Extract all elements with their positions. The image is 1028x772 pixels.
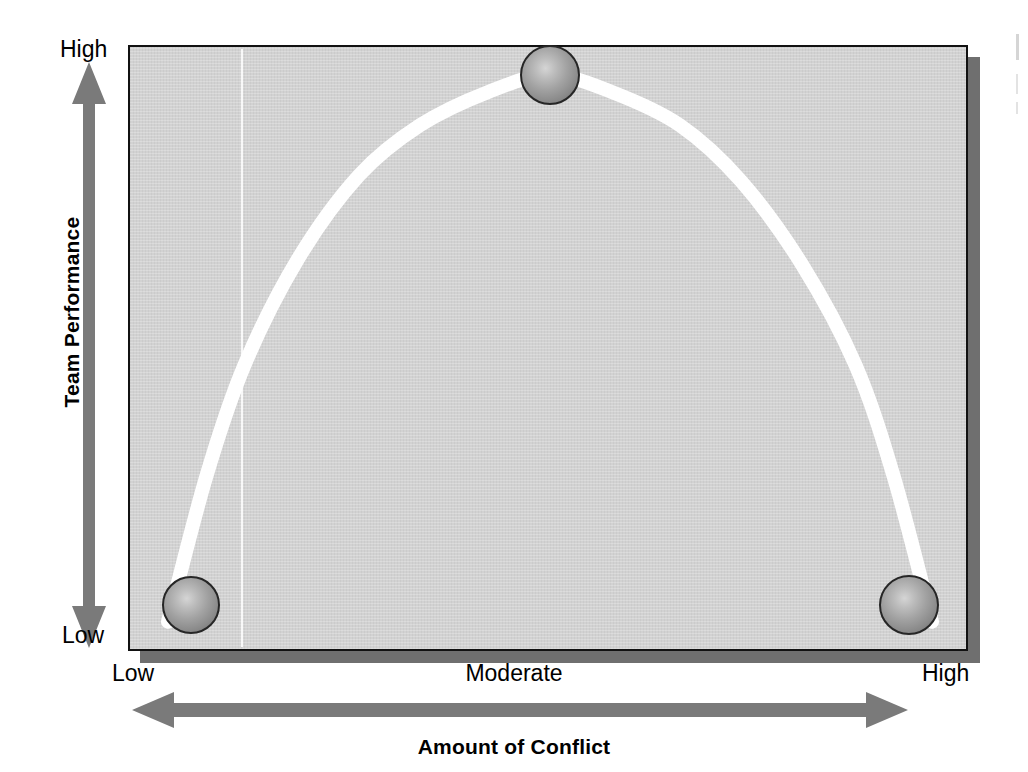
x-tick-high: High [922, 660, 969, 687]
x-tick-moderate: Moderate [0, 660, 1028, 687]
marker-high-conflict [879, 575, 939, 635]
plot-panel [128, 45, 968, 651]
performance-curve [130, 47, 970, 653]
marker-low-conflict [162, 576, 220, 634]
marker-moderate-conflict [520, 45, 580, 105]
y-tick-high: High [60, 36, 107, 63]
conflict-performance-figure: Team Performance High Low Low Moderate H… [0, 0, 1028, 772]
double-arrow-horizontal-icon [130, 690, 910, 730]
page-edge-artifact [1008, 28, 1024, 118]
x-axis-title: Amount of Conflict [0, 735, 1028, 759]
y-tick-low: Low [62, 622, 104, 649]
y-axis-title: Team Performance [60, 182, 84, 442]
